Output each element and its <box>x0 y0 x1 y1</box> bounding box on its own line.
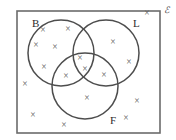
element-mark-B: × <box>65 24 70 34</box>
element-mark-outside: × <box>144 8 149 18</box>
venn-diagram-canvas: B L F ℰ ×××××××××××××××××× <box>0 0 176 140</box>
element-mark-B: × <box>52 42 57 52</box>
element-mark-F: × <box>84 93 89 103</box>
element-mark-outside: × <box>30 110 35 120</box>
element-mark-B: × <box>33 40 38 50</box>
venn-diagram-page: B L F ℰ ×××××××××××××××××× <box>0 0 176 140</box>
element-mark-L: × <box>110 37 115 47</box>
element-mark-outside: × <box>61 120 66 130</box>
set-label-f: F <box>110 114 116 126</box>
element-mark-outside: × <box>22 79 27 89</box>
element-mark-outside: × <box>134 96 139 106</box>
element-mark-B: × <box>40 25 45 35</box>
element-mark-B-and-L: × <box>77 53 82 63</box>
element-mark-B-and-F: × <box>63 71 68 81</box>
element-mark-outside: × <box>123 113 128 123</box>
set-label-b: B <box>32 17 39 29</box>
set-label-l: L <box>133 17 140 29</box>
universal-set-symbol: ℰ <box>164 5 171 15</box>
element-mark-L-and-F: × <box>101 70 106 80</box>
element-mark-B: × <box>41 62 46 72</box>
element-mark-L: × <box>126 57 131 67</box>
element-mark-B-and-L-and-F: × <box>82 64 87 74</box>
